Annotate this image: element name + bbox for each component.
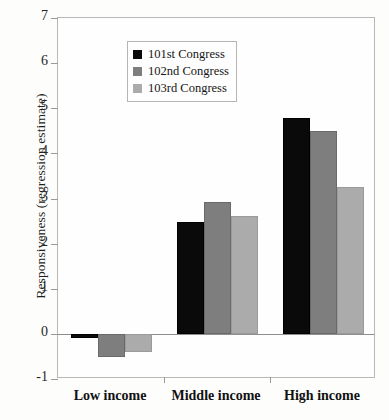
y-tick-label: 3 [18, 189, 48, 205]
legend-label: 102nd Congress [148, 64, 229, 79]
y-tick-mark [51, 108, 58, 109]
bar [204, 202, 231, 334]
bar [283, 118, 310, 334]
y-tick-label: 7 [18, 8, 48, 24]
black-swatch [133, 50, 142, 59]
bar-chart-figure: Responsiveness (regression estimate) 765… [0, 0, 389, 420]
y-tick-mark [51, 18, 58, 19]
chart-legend: 101st Congress102nd Congress103rd Congre… [127, 41, 237, 102]
light-gray-swatch [133, 84, 142, 93]
y-tick-label: -1 [18, 369, 48, 385]
y-tick-mark [51, 334, 58, 335]
plot-area: 101st Congress102nd Congress103rd Congre… [57, 17, 375, 378]
x-category-label: Low income [57, 388, 163, 404]
x-category-label: High income [269, 388, 375, 404]
bar [337, 187, 364, 334]
y-tick-label: 4 [18, 143, 48, 159]
y-tick-label: 6 [18, 53, 48, 69]
bar [125, 334, 152, 352]
legend-item: 102nd Congress [133, 63, 229, 80]
bar [231, 216, 258, 334]
y-tick-mark [51, 379, 58, 380]
y-tick-label: 0 [18, 324, 48, 340]
bar [177, 222, 204, 334]
y-tick-label: 2 [18, 234, 48, 250]
y-tick-label: 5 [18, 98, 48, 114]
x-category-label: Middle income [163, 388, 269, 404]
y-tick-mark [51, 289, 58, 290]
y-tick-label: 1 [18, 279, 48, 295]
bar [98, 334, 125, 357]
legend-label: 101st Congress [148, 47, 225, 62]
x-tick-mark [164, 377, 165, 383]
bar [310, 131, 337, 334]
legend-item: 101st Congress [133, 46, 229, 63]
bar [71, 334, 98, 339]
y-tick-mark [51, 153, 58, 154]
y-tick-mark [51, 63, 58, 64]
y-tick-mark [51, 199, 58, 200]
x-tick-mark [270, 377, 271, 383]
medium-gray-swatch [133, 67, 142, 76]
y-tick-mark [51, 244, 58, 245]
legend-item: 103rd Congress [133, 80, 229, 97]
legend-label: 103rd Congress [148, 81, 227, 96]
